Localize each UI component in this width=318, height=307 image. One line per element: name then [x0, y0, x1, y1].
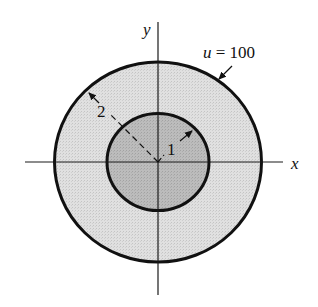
x-axis-label: x [290, 154, 299, 173]
y-axis-label: y [141, 20, 151, 39]
inner-radius-label: 1 [167, 140, 176, 159]
boundary-value: = 100 [212, 43, 256, 62]
boundary-variable: u [203, 43, 212, 62]
boundary-condition-arrow [219, 66, 232, 79]
boundary-condition-label: u = 100 [203, 43, 255, 62]
outer-radius-label: 2 [97, 102, 106, 121]
annulus-diagram: x y 2 1 u = 100 [0, 0, 318, 307]
